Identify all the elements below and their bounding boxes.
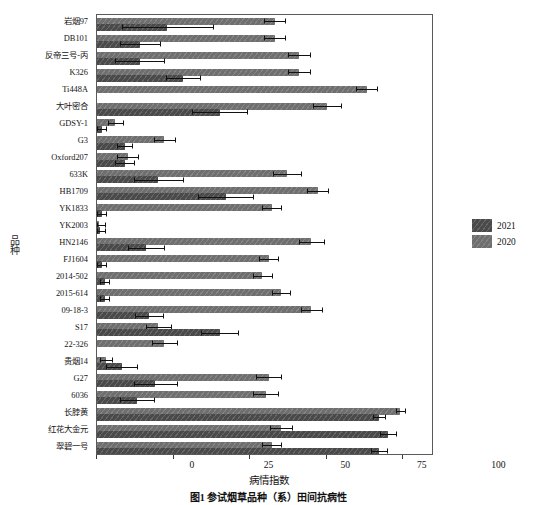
error-bar bbox=[273, 174, 301, 175]
error-bar bbox=[152, 343, 177, 344]
y-axis-tick-label: 22-326 bbox=[64, 341, 88, 349]
x-axis-tick-label: 75 bbox=[417, 459, 427, 471]
error-bar bbox=[134, 180, 183, 181]
error-bar-cap bbox=[201, 330, 202, 335]
legend-swatch bbox=[472, 219, 492, 232]
error-bar bbox=[97, 129, 106, 130]
error-bar bbox=[288, 72, 309, 73]
error-bar-cap bbox=[310, 70, 311, 75]
error-bar bbox=[264, 38, 285, 39]
error-bar bbox=[122, 27, 214, 28]
y-axis-tick-labels: 岩烟97DB101反帝三号-丙K326Ti448A大叶密合GDSY-1G3Oxf… bbox=[26, 14, 92, 455]
error-bar bbox=[371, 451, 386, 452]
error-bar-cap bbox=[301, 307, 302, 312]
error-bar-cap bbox=[380, 432, 381, 437]
y-axis-tick-label: 长脖黄 bbox=[64, 408, 88, 416]
error-bar bbox=[117, 157, 138, 158]
error-bar-cap bbox=[164, 59, 165, 64]
error-bar bbox=[288, 55, 309, 56]
error-bar bbox=[259, 259, 277, 260]
error-bar-cap bbox=[247, 110, 248, 115]
error-bar-cap bbox=[307, 188, 308, 193]
error-bar-cap bbox=[122, 25, 123, 30]
y-axis-tick-label: HB1709 bbox=[60, 188, 88, 196]
figure-chart: 品种 岩烟97DB101反帝三号-丙K326Ti448A大叶密合GDSY-1G3… bbox=[0, 0, 537, 505]
error-bar-cap bbox=[135, 313, 136, 318]
error-bar-cap bbox=[134, 161, 135, 166]
y-axis-tick-label: 贵烟14 bbox=[64, 358, 88, 366]
error-bar-cap bbox=[322, 307, 323, 312]
plot-area bbox=[96, 14, 433, 455]
y-axis-tick-label: 翠碧一号 bbox=[56, 442, 88, 450]
bar bbox=[97, 431, 388, 438]
error-bar-cap bbox=[97, 127, 98, 132]
y-axis-tick-label: 大叶密合 bbox=[56, 103, 88, 111]
bar bbox=[97, 414, 379, 421]
error-bar bbox=[253, 394, 278, 395]
x-axis-tick-label: 100 bbox=[491, 459, 505, 471]
y-axis-tick-label: Oxford207 bbox=[51, 154, 88, 162]
bar bbox=[97, 272, 262, 279]
bar bbox=[97, 448, 379, 455]
error-bar-cap bbox=[213, 25, 214, 30]
error-bar-cap bbox=[396, 432, 397, 437]
error-bar-cap bbox=[154, 398, 155, 403]
error-bar-cap bbox=[177, 341, 178, 346]
legend-swatch bbox=[472, 235, 492, 248]
bar bbox=[97, 86, 367, 93]
error-bar-cap bbox=[264, 19, 265, 24]
y-axis-tick-label: GDSY-1 bbox=[59, 120, 88, 128]
y-axis-label-char: 种 bbox=[4, 246, 26, 256]
error-bar-cap bbox=[97, 228, 98, 233]
error-bar bbox=[115, 163, 133, 164]
error-bar-cap bbox=[301, 171, 302, 176]
error-bar-cap bbox=[106, 127, 107, 132]
error-bar bbox=[301, 310, 322, 311]
error-bar-cap bbox=[262, 205, 263, 210]
y-axis-tick-label: Ti448A bbox=[62, 86, 88, 94]
error-bar bbox=[100, 360, 112, 361]
error-bar-cap bbox=[396, 409, 397, 414]
figure-caption: 图1 参试烟草品种（系）田间抗病性 bbox=[0, 489, 537, 505]
y-axis-tick-label: YK1833 bbox=[59, 205, 88, 213]
legend: 20212020 bbox=[466, 218, 532, 270]
error-bar-cap bbox=[100, 296, 101, 301]
error-bar-cap bbox=[192, 110, 193, 115]
error-bar-cap bbox=[272, 273, 273, 278]
error-bar-cap bbox=[128, 245, 129, 250]
error-bar-cap bbox=[405, 409, 406, 414]
error-bar-cap bbox=[97, 211, 98, 216]
error-bar-cap bbox=[117, 144, 118, 149]
error-bar-cap bbox=[163, 313, 164, 318]
error-bar bbox=[108, 123, 123, 124]
y-axis-tick-label: G3 bbox=[78, 137, 88, 145]
error-bar-cap bbox=[166, 76, 167, 81]
error-bar bbox=[120, 400, 154, 401]
x-axis-tick-label: 25 bbox=[264, 459, 274, 471]
error-bar-cap bbox=[377, 87, 378, 92]
error-bar-cap bbox=[253, 273, 254, 278]
error-bar bbox=[380, 434, 395, 435]
error-bar-cap bbox=[341, 104, 342, 109]
error-bar bbox=[117, 146, 132, 147]
y-axis-label: 品种 bbox=[4, 236, 26, 256]
error-bar bbox=[307, 191, 328, 192]
y-axis-tick-label: 岩烟97 bbox=[64, 18, 88, 26]
error-bar-cap bbox=[299, 239, 300, 244]
error-bar bbox=[264, 21, 285, 22]
error-bar bbox=[253, 276, 271, 277]
error-bar-cap bbox=[313, 104, 314, 109]
error-bar-cap bbox=[288, 70, 289, 75]
error-bar-cap bbox=[183, 177, 184, 182]
error-bar-cap bbox=[138, 154, 139, 159]
error-bar bbox=[192, 112, 247, 113]
legend-label: 2020 bbox=[497, 236, 516, 248]
error-bar bbox=[373, 417, 385, 418]
error-bar bbox=[166, 78, 200, 79]
error-bar-cap bbox=[109, 296, 110, 301]
error-bar-cap bbox=[200, 76, 201, 81]
y-axis-tick-label: 反帝三号-丙 bbox=[45, 52, 88, 60]
bar bbox=[97, 255, 269, 262]
error-bar-cap bbox=[387, 449, 388, 454]
error-bar-cap bbox=[328, 188, 329, 193]
